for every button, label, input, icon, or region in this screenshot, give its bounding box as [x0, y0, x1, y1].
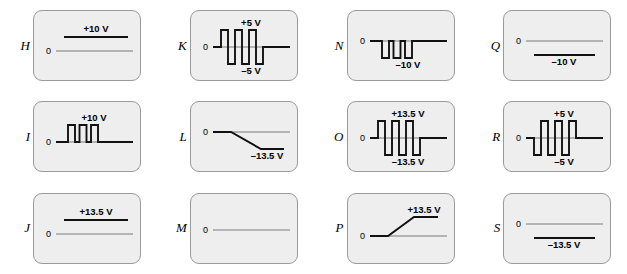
- bottom-voltage-label: –13.5 V: [391, 156, 424, 167]
- waveform-cell-r: R0+5 V–5 V: [470, 91, 627, 182]
- waveform-panel-n[interactable]: 0–10 V: [347, 10, 455, 81]
- waveform-plot-q: 0–10 V: [504, 11, 611, 81]
- panel-letter-j: J: [12, 220, 30, 236]
- zero-label: 0: [516, 37, 521, 47]
- waveform-panel-m[interactable]: 0: [190, 193, 298, 264]
- panel-letter-p: P: [326, 220, 344, 236]
- waveform-plot-r: 0+5 V–5 V: [504, 102, 611, 172]
- panel-letter-m: M: [169, 220, 187, 236]
- waveform-panel-s[interactable]: 0–13.5 V: [503, 193, 611, 264]
- zero-label: 0: [516, 134, 521, 144]
- bottom-voltage-label: –5 V: [554, 156, 574, 167]
- top-voltage-label: +5 V: [554, 108, 574, 119]
- panel-grid: H0+10 VK0+5 V–5 VN0–10 VQ0–10 VI0+10 VL0…: [0, 0, 627, 274]
- signal-trace: [370, 41, 447, 58]
- panel-letter-r: R: [482, 129, 500, 145]
- zero-label: 0: [203, 225, 208, 235]
- waveform-cell-n: N0–10 V: [314, 0, 471, 91]
- signal-trace: [56, 125, 133, 142]
- panel-letter-k: K: [169, 38, 187, 54]
- panel-letter-i: I: [12, 129, 30, 145]
- panel-letter-h: H: [12, 38, 30, 54]
- trace-group: [56, 125, 133, 142]
- panel-letter-s: S: [482, 220, 500, 236]
- top-voltage-label: +13.5 V: [391, 108, 425, 119]
- zero-label: 0: [359, 231, 364, 241]
- waveform-cell-p: P0+13.5 V: [314, 183, 471, 274]
- top-voltage-label: +10 V: [81, 112, 107, 123]
- zero-label: 0: [203, 128, 208, 138]
- waveform-plot-i: 0+10 V: [34, 102, 141, 172]
- zero-label: 0: [203, 43, 208, 53]
- waveform-plot-n: 0–10 V: [348, 11, 455, 81]
- signal-trace: [213, 132, 284, 149]
- waveform-panel-i[interactable]: 0+10 V: [33, 101, 141, 172]
- panel-letter-o: O: [326, 129, 344, 145]
- zero-label: 0: [46, 138, 51, 148]
- zero-label: 0: [516, 219, 521, 229]
- waveform-plot-k: 0+5 V–5 V: [191, 11, 298, 81]
- waveform-panel-k[interactable]: 0+5 V–5 V: [190, 10, 298, 81]
- waveform-plot-p: 0+13.5 V: [348, 194, 455, 264]
- zero-label: 0: [359, 37, 364, 47]
- zero-label: 0: [359, 134, 364, 144]
- waveform-plot-j: 0+13.5 V: [34, 194, 141, 264]
- waveform-panel-p[interactable]: 0+13.5 V: [347, 193, 455, 264]
- zero-label: 0: [46, 229, 51, 239]
- bottom-voltage-label: –5 V: [241, 65, 261, 76]
- waveform-panel-r[interactable]: 0+5 V–5 V: [503, 101, 611, 172]
- waveform-plot-l: 0–13.5 V: [191, 102, 298, 172]
- zero-label: 0: [46, 47, 51, 57]
- waveform-panel-q[interactable]: 0–10 V: [503, 10, 611, 81]
- waveform-cell-l: L0–13.5 V: [157, 91, 314, 182]
- bottom-voltage-label: –13.5 V: [548, 239, 581, 250]
- waveform-panel-l[interactable]: 0–13.5 V: [190, 101, 298, 172]
- waveform-plot-m: 0: [191, 194, 298, 264]
- waveform-cell-i: I0+10 V: [0, 91, 157, 182]
- waveform-panel-o[interactable]: 0+13.5 V–13.5 V: [347, 101, 455, 172]
- waveform-plot-s: 0–13.5 V: [504, 194, 611, 264]
- panel-letter-q: Q: [482, 38, 500, 54]
- waveform-plot-o: 0+13.5 V–13.5 V: [348, 102, 455, 172]
- waveform-cell-k: K0+5 V–5 V: [157, 0, 314, 91]
- waveform-figure: H0+10 VK0+5 V–5 VN0–10 VQ0–10 VI0+10 VL0…: [0, 0, 627, 274]
- top-voltage-label: +10 V: [83, 23, 109, 34]
- panel-letter-l: L: [169, 129, 187, 145]
- bottom-voltage-label: –10 V: [552, 56, 577, 67]
- waveform-panel-h[interactable]: 0+10 V: [33, 10, 141, 81]
- signal-trace: [370, 217, 438, 236]
- bottom-voltage-label: –13.5 V: [250, 150, 283, 161]
- top-voltage-label: +5 V: [241, 17, 261, 28]
- panel-letter-n: N: [326, 38, 344, 54]
- waveform-cell-q: Q0–10 V: [470, 0, 627, 91]
- bottom-voltage-label: –10 V: [395, 59, 420, 70]
- top-voltage-label: +13.5 V: [407, 204, 441, 215]
- top-voltage-label: +13.5 V: [79, 206, 113, 217]
- trace-group: [370, 41, 447, 58]
- waveform-cell-j: J0+13.5 V: [0, 183, 157, 274]
- waveform-panel-j[interactable]: 0+13.5 V: [33, 193, 141, 264]
- waveform-cell-o: O0+13.5 V–13.5 V: [314, 91, 471, 182]
- waveform-cell-h: H0+10 V: [0, 0, 157, 91]
- waveform-cell-s: S0–13.5 V: [470, 183, 627, 274]
- waveform-plot-h: 0+10 V: [34, 11, 141, 81]
- waveform-cell-m: M0: [157, 183, 314, 274]
